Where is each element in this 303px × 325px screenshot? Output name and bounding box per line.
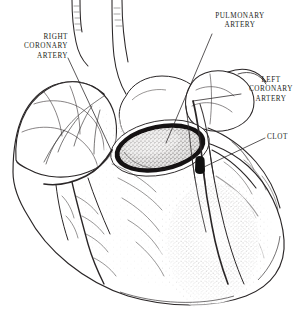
label-left-coronary-artery: LEFT CORONARY ARTERY <box>243 76 299 104</box>
label-pulmonary-artery: PULMONARY ARTERY <box>200 12 280 31</box>
label-right-coronary-artery: RIGHT CORONARY ARTERY <box>14 33 68 61</box>
coronary-clot <box>195 156 205 174</box>
great-vessel-stumps <box>72 0 128 94</box>
heart-illustration-figure: RIGHT CORONARY ARTERY PULMONARY ARTERY L… <box>0 0 303 325</box>
label-clot: CLOT <box>267 133 299 142</box>
